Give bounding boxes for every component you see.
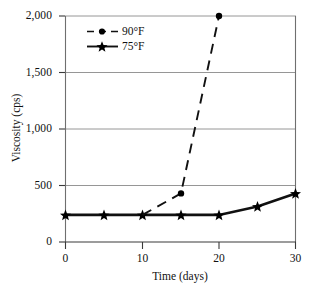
x-axis-title: Time (days)	[120, 270, 240, 282]
y-tick-label-0: 0	[8, 235, 52, 247]
x-tick-label-30: 30	[276, 252, 316, 264]
legend-label-90f: 90°F	[122, 25, 145, 37]
y-axis-title: Viscosity (cps)	[10, 73, 22, 183]
x-tick-label-10: 10	[123, 252, 163, 264]
x-tick-marks	[66, 242, 296, 249]
legend-sample-marker-90f	[99, 28, 105, 34]
legend-label-75f: 75°F	[122, 40, 145, 52]
y-tick-marks	[59, 16, 65, 242]
x-tick-label-20: 20	[199, 252, 239, 264]
y-tick-label-2000: 2,000	[8, 9, 52, 21]
chart-figure: 2,000 1,500 1,000 500 0 0 10 20 30 Visco…	[0, 0, 315, 296]
x-tick-label-0: 0	[46, 252, 86, 264]
